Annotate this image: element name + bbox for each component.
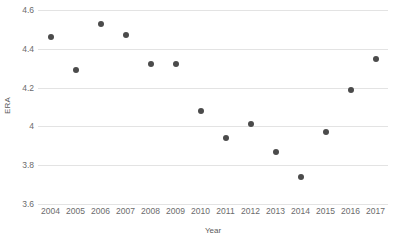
x-axis-title-label: Year [205,226,221,235]
y-axis-tick-label: 4.2 [4,83,34,93]
x-axis-tick-label: 2007 [116,206,135,216]
gridline [38,10,388,11]
gridline [38,165,388,166]
y-axis-tick-label: 4 [4,121,34,131]
data-point[interactable] [148,61,154,67]
x-axis-tick-label: 2015 [316,206,335,216]
data-point[interactable] [123,32,129,38]
y-axis-tick-label: 4.6 [4,5,34,15]
x-axis-tick-label: 2017 [366,206,385,216]
data-point[interactable] [223,135,229,141]
data-point[interactable] [98,21,104,27]
x-axis-tick-label: 2005 [66,206,85,216]
data-point[interactable] [248,121,254,127]
x-axis-tick-label: 2011 [216,206,234,216]
x-axis-tick-label: 2010 [191,206,210,216]
data-point[interactable] [323,129,329,135]
x-axis-tick-label: 2012 [241,206,260,216]
data-point[interactable] [173,61,179,67]
data-point[interactable] [348,87,354,93]
y-axis-tick-label: 3.8 [4,160,34,170]
x-axis-tick-label: 2004 [41,206,60,216]
data-point[interactable] [73,67,79,73]
data-point[interactable] [373,56,379,62]
x-axis-title: Year [38,226,388,237]
plot-area [38,10,388,204]
x-axis-tick-label: 2009 [166,206,185,216]
scatter-chart: ERA 4.64.44.243.83.6 2004200520062007200… [0,0,393,237]
y-axis-tick-labels: 4.64.44.243.83.6 [0,10,34,204]
x-axis-tick-label: 2016 [341,206,360,216]
data-point[interactable] [198,108,204,114]
x-axis-tick-label: 2008 [141,206,160,216]
gridline [38,126,388,127]
gridline [38,49,388,50]
x-axis-tick-labels: 2004200520062007200820092010201120122013… [0,206,393,220]
gridline [38,204,388,205]
data-point[interactable] [298,174,304,180]
x-axis-tick-label: 2013 [266,206,285,216]
x-axis-tick-label: 2014 [291,206,310,216]
data-point[interactable] [48,34,54,40]
data-point[interactable] [273,149,279,155]
x-axis-tick-label: 2006 [91,206,110,216]
gridline [38,88,388,89]
y-axis-tick-label: 4.4 [4,44,34,54]
